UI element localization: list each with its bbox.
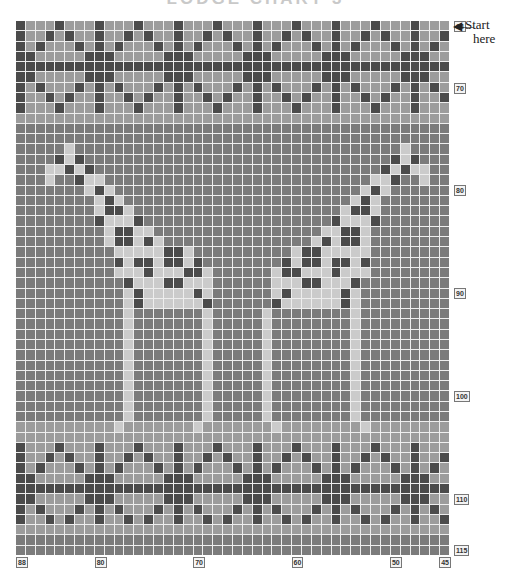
chart-cell — [223, 391, 232, 400]
chart-cell — [36, 289, 45, 298]
chart-cell — [401, 546, 410, 555]
chart-cell — [55, 83, 64, 92]
chart-cell — [55, 525, 64, 534]
chart-cell — [401, 278, 410, 287]
chart-cell — [411, 350, 420, 359]
chart-cell — [440, 535, 449, 544]
chart-cell — [154, 31, 163, 40]
chart-cell — [36, 319, 45, 328]
chart-cell — [420, 278, 429, 287]
chart-cell — [203, 289, 212, 298]
chart-cell — [16, 93, 25, 102]
chart-cell — [282, 114, 291, 123]
chart-cell — [411, 247, 420, 256]
chart-cell — [154, 340, 163, 349]
chart-cell — [233, 525, 242, 534]
chart-cell — [154, 93, 163, 102]
chart-cell — [124, 330, 133, 339]
chart-cell — [184, 299, 193, 308]
chart-cell — [174, 144, 183, 153]
chart-cell — [253, 412, 262, 421]
start-here-annotation: ◀— Start here — [465, 18, 495, 46]
chart-cell — [124, 361, 133, 370]
chart-cell — [223, 247, 232, 256]
chart-cell — [253, 515, 262, 524]
chart-cell — [253, 278, 262, 287]
chart-cell — [144, 309, 153, 318]
chart-cell — [75, 515, 84, 524]
chart-cell — [371, 319, 380, 328]
chart-cell — [36, 175, 45, 184]
chart-cell — [391, 433, 400, 442]
chart-cell — [430, 535, 439, 544]
chart-cell — [124, 309, 133, 318]
chart-cell — [36, 299, 45, 308]
chart-cell — [233, 103, 242, 112]
chart-cell — [46, 278, 55, 287]
chart-cell — [312, 206, 321, 215]
chart-cell — [95, 83, 104, 92]
chart-cell — [391, 247, 400, 256]
chart-cell — [282, 412, 291, 421]
chart-cell — [75, 330, 84, 339]
chart-cell — [302, 124, 311, 133]
chart-cell — [223, 175, 232, 184]
chart-cell — [95, 453, 104, 462]
chart-cell — [263, 124, 272, 133]
chart-cell — [361, 124, 370, 133]
chart-cell — [351, 134, 360, 143]
chart-cell — [184, 330, 193, 339]
chart-cell — [203, 309, 212, 318]
chart-cell — [371, 546, 380, 555]
chart-cell — [381, 515, 390, 524]
chart-cell — [194, 361, 203, 370]
chart-cell — [16, 494, 25, 503]
chart-cell — [351, 299, 360, 308]
chart-cell — [243, 330, 252, 339]
chart-cell — [144, 391, 153, 400]
chart-cell — [302, 484, 311, 493]
chart-cell — [361, 31, 370, 40]
chart-cell — [75, 268, 84, 277]
chart-cell — [194, 268, 203, 277]
chart-cell — [223, 52, 232, 61]
chart-cell — [381, 494, 390, 503]
chart-cell — [134, 247, 143, 256]
chart-cell — [263, 350, 272, 359]
chart-cell — [223, 505, 232, 514]
chart-cell — [26, 175, 35, 184]
chart-cell — [430, 175, 439, 184]
chart-cell — [174, 525, 183, 534]
chart-cell — [174, 505, 183, 514]
chart-cell — [440, 422, 449, 431]
chart-cell — [85, 72, 94, 81]
chart-cell — [312, 422, 321, 431]
chart-cell — [95, 247, 104, 256]
chart-cell — [65, 93, 74, 102]
chart-cell — [332, 350, 341, 359]
chart-cell — [55, 422, 64, 431]
chart-cell — [243, 525, 252, 534]
chart-cell — [420, 361, 429, 370]
chart-cell — [134, 361, 143, 370]
chart-cell — [124, 155, 133, 164]
chart-cell — [282, 422, 291, 431]
chart-cell — [401, 309, 410, 318]
chart-cell — [184, 268, 193, 277]
chart-cell — [26, 247, 35, 256]
chart-cell — [371, 340, 380, 349]
chart-cell — [351, 330, 360, 339]
chart-cell — [194, 474, 203, 483]
chart-cell — [115, 402, 124, 411]
chart-cell — [420, 258, 429, 267]
chart-cell — [124, 453, 133, 462]
chart-cell — [272, 391, 281, 400]
chart-cell — [55, 443, 64, 452]
chart-cell — [36, 381, 45, 390]
chart-cell — [391, 391, 400, 400]
chart-cell — [144, 124, 153, 133]
chart-cell — [440, 546, 449, 555]
chart-cell — [105, 494, 114, 503]
chart-cell — [411, 381, 420, 390]
chart-cell — [26, 422, 35, 431]
